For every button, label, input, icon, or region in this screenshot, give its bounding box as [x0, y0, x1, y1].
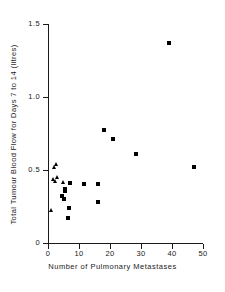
data-point-square	[67, 206, 71, 210]
data-point-square	[63, 189, 67, 193]
data-point-triangle	[61, 180, 65, 184]
data-point-square	[134, 152, 138, 156]
plot-area	[0, 0, 225, 292]
data-point-triangle	[55, 175, 59, 179]
data-point-triangle	[53, 179, 57, 183]
scatter-plot-figure: 00.51.01.5 01020304050 Number of Pulmona…	[0, 0, 225, 292]
data-point-square	[82, 182, 86, 186]
data-point-triangle	[54, 162, 58, 166]
data-point-square	[62, 197, 66, 201]
data-point-square	[111, 137, 115, 141]
data-point-square	[102, 128, 106, 132]
data-point-square	[167, 41, 171, 45]
data-point-triangle	[49, 208, 53, 212]
data-point-square	[192, 165, 196, 169]
data-point-square	[96, 200, 100, 204]
data-point-square	[66, 216, 70, 220]
data-point-square	[96, 182, 100, 186]
data-point-square	[68, 181, 72, 185]
